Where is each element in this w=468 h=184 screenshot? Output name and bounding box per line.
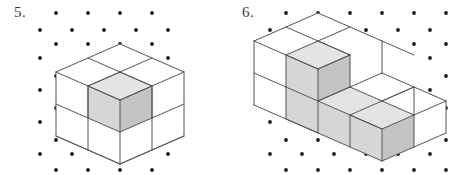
cube-solid-5 (56, 44, 184, 164)
figure-6-drawing (234, 0, 468, 184)
worksheet-page: 5. (0, 0, 468, 184)
figure-5-panel: 5. (0, 0, 234, 184)
figure-6-panel: 6. (234, 0, 468, 184)
cube-solid-6 (254, 13, 446, 161)
figure-5-drawing (0, 0, 234, 184)
